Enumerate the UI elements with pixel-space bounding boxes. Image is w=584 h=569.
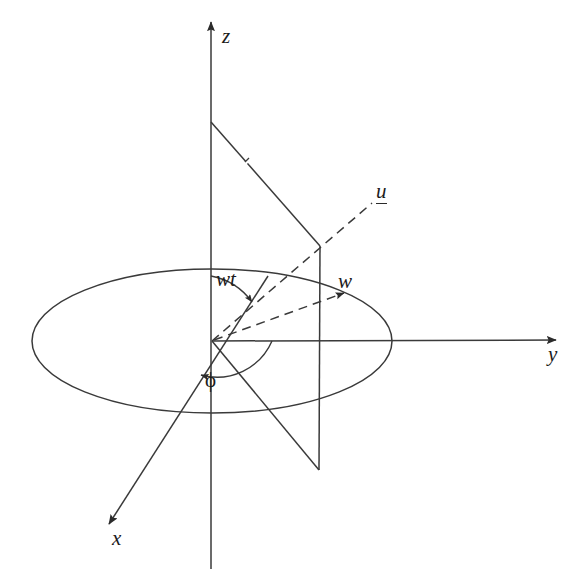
y-axis-label: y: [548, 344, 557, 365]
z-axis-label: z: [222, 26, 230, 47]
z-to-apex-line: [211, 122, 320, 246]
w-vector-line: [214, 293, 344, 340]
origin-to-base-line: [212, 341, 319, 470]
u-vector-label: u: [376, 181, 387, 204]
vertical-drop-line: [319, 246, 320, 470]
phi-angle-label: ϕ: [205, 370, 216, 391]
figure-root: z y x w u wt ϕ: [0, 0, 584, 569]
x-axis-line: [109, 276, 268, 524]
y-axis-line: [212, 340, 556, 341]
coordinate-diagram: [0, 0, 584, 569]
wt-angle-label: wt: [216, 269, 236, 290]
x-axis-label: x: [112, 528, 121, 549]
w-vector-label: w: [338, 271, 352, 292]
